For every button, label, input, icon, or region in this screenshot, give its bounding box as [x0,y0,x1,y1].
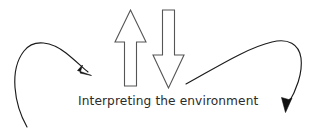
left-curved-arrow-path [15,43,88,127]
left-curved-arrow [15,43,92,127]
down-block-arrow [153,10,184,88]
up-block-arrow [115,10,146,86]
right-curved-arrow-head [282,98,293,113]
caption-label: Interpreting the environment [78,94,258,108]
diagram-canvas: Interpreting the environment [0,0,312,130]
diagram-illustration: Interpreting the environment [0,0,312,130]
left-curved-arrow-head [78,65,92,76]
